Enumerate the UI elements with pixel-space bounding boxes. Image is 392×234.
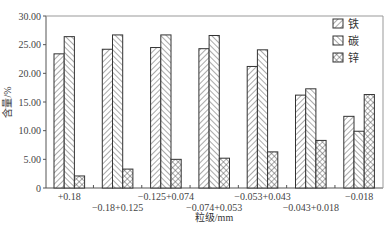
legend-label: 锌	[348, 51, 359, 64]
y-tick-label: 10.00	[19, 125, 42, 136]
bar-series	[54, 35, 374, 188]
bar-group	[296, 89, 327, 188]
bar	[268, 152, 278, 188]
bar	[354, 131, 364, 188]
bar	[113, 35, 123, 188]
bar	[257, 50, 267, 188]
bar	[247, 66, 257, 188]
bar	[161, 35, 171, 188]
legend-swatch	[333, 19, 343, 28]
x-category-label: −0.043+0.018	[283, 202, 339, 213]
y-tick-label: 20.00	[19, 68, 42, 79]
bar	[199, 49, 209, 188]
x-category-label: −0.125+0.074	[138, 191, 194, 202]
bar-group	[151, 35, 182, 188]
y-tick-label: 15.00	[19, 97, 42, 108]
bar-group	[344, 95, 375, 188]
y-axis-ticks: 05.0010.0015.0020.0025.0030.00	[19, 11, 47, 194]
x-axis-title: 粒级/mm	[195, 211, 234, 223]
legend-label: 铁	[348, 18, 359, 30]
bar	[209, 35, 219, 188]
bar	[74, 176, 84, 188]
bar	[102, 49, 112, 188]
x-category-label: +0.18	[58, 191, 81, 202]
bar	[64, 37, 74, 188]
bar	[171, 159, 181, 188]
category-labels: +0.18−0.18+0.125−0.125+0.074−0.074+0.053…	[58, 191, 373, 213]
bar-group	[247, 50, 278, 188]
bar-group	[102, 35, 133, 188]
y-tick-label: 5.00	[24, 154, 42, 165]
bar	[316, 140, 326, 188]
bar-group	[199, 35, 230, 188]
y-tick-label: 30.00	[19, 11, 42, 22]
legend-swatch	[333, 36, 343, 45]
legend-swatch	[333, 53, 343, 62]
bar	[123, 169, 133, 188]
bar-chart: 05.0010.0015.0020.0025.0030.00 +0.18−0.1…	[0, 0, 392, 234]
x-category-label: −0.18+0.125	[92, 202, 143, 213]
bar	[151, 48, 161, 188]
bar	[364, 95, 374, 188]
bar	[344, 116, 354, 188]
bar	[54, 54, 64, 188]
legend: 铁碳锌	[333, 18, 359, 64]
x-category-label: −0.053+0.043	[234, 191, 290, 202]
y-tick-label: 0	[36, 183, 41, 194]
x-category-label: −0.018	[345, 191, 373, 202]
y-tick-label: 25.00	[19, 39, 42, 50]
bar	[306, 89, 316, 188]
y-axis-title: 含量/%	[1, 86, 13, 117]
bar	[219, 158, 229, 188]
bar	[296, 95, 306, 188]
legend-label: 碳	[348, 34, 359, 47]
bar-group	[54, 37, 85, 188]
